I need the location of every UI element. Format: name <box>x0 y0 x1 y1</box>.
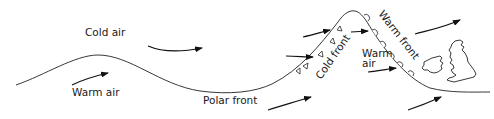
british-isles-map <box>422 40 476 82</box>
arrow-icon <box>303 30 330 37</box>
arrow-icon <box>268 97 311 110</box>
arrow-icon <box>351 31 368 32</box>
arrow-icon <box>408 97 441 110</box>
arrow-icon <box>415 20 460 34</box>
cold-air-label: Cold air <box>85 26 126 38</box>
arrow-icon <box>72 73 108 85</box>
ireland-outline <box>422 56 443 73</box>
polar-front-diagram: Cold air Warm air Polar front Cold front… <box>0 0 494 119</box>
polar-front-label: Polar front <box>203 94 257 106</box>
great-britain-outline <box>447 40 476 82</box>
arrow-icon <box>148 46 202 51</box>
warm-sector-label-line2: air <box>362 57 376 69</box>
warm-air-label: Warm air <box>72 86 120 98</box>
